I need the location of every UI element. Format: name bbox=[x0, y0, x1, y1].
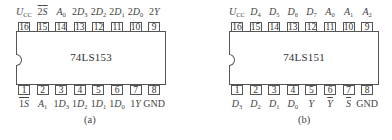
pin-15: 15 bbox=[37, 22, 49, 32]
pin-14: 14 bbox=[55, 22, 67, 32]
pin-15: 15 bbox=[250, 22, 262, 32]
chip-diagram-a: 74LS153 (a) 16UCC152S14A0132D3122D2112D1… bbox=[0, 0, 180, 140]
pin-3: 3 bbox=[268, 85, 280, 95]
pin-10: 10 bbox=[130, 22, 142, 32]
caption: (b) bbox=[298, 114, 310, 125]
pin-label-8: GND bbox=[356, 98, 378, 109]
pin-7: 7 bbox=[343, 85, 355, 95]
pin-label-8: GND bbox=[143, 98, 165, 109]
chip-name: 74LS151 bbox=[230, 51, 378, 63]
pin-13: 13 bbox=[74, 22, 86, 32]
pin-1: 1 bbox=[18, 85, 30, 95]
pin-5: 5 bbox=[92, 85, 104, 95]
pin-9: 9 bbox=[148, 22, 160, 32]
pin-5: 5 bbox=[305, 85, 317, 95]
pin-16: 16 bbox=[18, 22, 30, 32]
pin-9: 9 bbox=[361, 22, 373, 32]
pin-12: 12 bbox=[92, 22, 104, 32]
chip-body: 74LS153 bbox=[16, 31, 166, 85]
chip-diagram-b: 74LS151 (b) 16UCC15D414D513D612D711A010A… bbox=[213, 0, 392, 140]
pin-8: 8 bbox=[148, 85, 160, 95]
pin-3: 3 bbox=[55, 85, 67, 95]
pin-10: 10 bbox=[343, 22, 355, 32]
pin-13: 13 bbox=[287, 22, 299, 32]
pin-label-9: 2Y bbox=[143, 6, 165, 17]
pin-4: 4 bbox=[287, 85, 299, 95]
pin-7: 7 bbox=[130, 85, 142, 95]
pin-11: 11 bbox=[111, 22, 123, 32]
pin-16: 16 bbox=[231, 22, 243, 32]
pin-label-9: A2 bbox=[356, 6, 378, 18]
pin-8: 8 bbox=[361, 85, 373, 95]
pin-1: 1 bbox=[231, 85, 243, 95]
pin-4: 4 bbox=[74, 85, 86, 95]
pin-6: 6 bbox=[324, 85, 336, 95]
caption: (a) bbox=[84, 114, 96, 125]
chip-body: 74LS151 bbox=[229, 31, 379, 85]
pin-6: 6 bbox=[111, 85, 123, 95]
pin-2: 2 bbox=[37, 85, 49, 95]
pin-2: 2 bbox=[250, 85, 262, 95]
chip-name: 74LS153 bbox=[17, 51, 165, 63]
pin-11: 11 bbox=[324, 22, 336, 32]
pin-14: 14 bbox=[268, 22, 280, 32]
pin-12: 12 bbox=[305, 22, 317, 32]
